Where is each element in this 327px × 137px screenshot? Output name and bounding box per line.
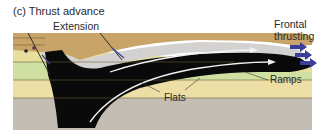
flats-label: Flats	[164, 92, 186, 103]
extension-label: Extension	[53, 21, 99, 33]
thrust-advance-diagram: (c) Thrust advance Extension Frontal thr…	[0, 0, 327, 137]
ramps-label: Ramps	[270, 74, 302, 85]
diagram-title: (c) Thrust advance	[13, 5, 105, 17]
frontal-thrusting-label: Frontal thrusting	[274, 19, 314, 42]
